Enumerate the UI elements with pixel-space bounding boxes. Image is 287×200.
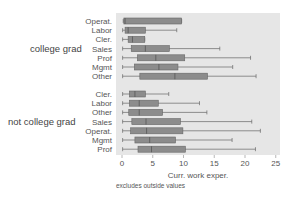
x-tick-label: 10 [179, 159, 188, 168]
category-label: Operat. [85, 127, 112, 136]
category-label: Prof [97, 54, 112, 63]
x-tick-label: 20 [241, 159, 250, 168]
group-label: not college grad [8, 116, 76, 127]
category-label: Sales [92, 45, 112, 54]
box-plot-chart: Operat.LaborCler.SalesProfMgmtOtherCler.… [0, 0, 287, 200]
category-label: Mgmt [92, 63, 113, 72]
category-label: Sales [92, 118, 112, 127]
category-label: Other [92, 108, 112, 117]
group-label: college grad [30, 43, 82, 54]
category-label: Labor [92, 99, 113, 108]
x-tick-label: 15 [210, 159, 219, 168]
footnote: excludes outside values [116, 182, 186, 189]
group-labels: college gradnot college grad [8, 43, 82, 127]
category-label: Cler. [96, 90, 112, 99]
category-label: Other [92, 72, 112, 81]
category-label: Cler. [96, 35, 112, 44]
x-tick-label: 5 [151, 159, 156, 168]
x-tick-label: 25 [271, 159, 280, 168]
category-label: Mgmt [92, 136, 113, 145]
x-axis-title: Curr. work exper. [168, 171, 228, 180]
category-label: Operat. [85, 17, 112, 26]
category-labels: Operat.LaborCler.SalesProfMgmtOtherCler.… [85, 17, 112, 154]
category-label: Labor [92, 26, 113, 35]
category-label: Prof [97, 145, 112, 154]
box-item [123, 18, 181, 24]
x-tick-label: 0 [120, 159, 125, 168]
x-axis: 0510152025 [120, 155, 281, 168]
